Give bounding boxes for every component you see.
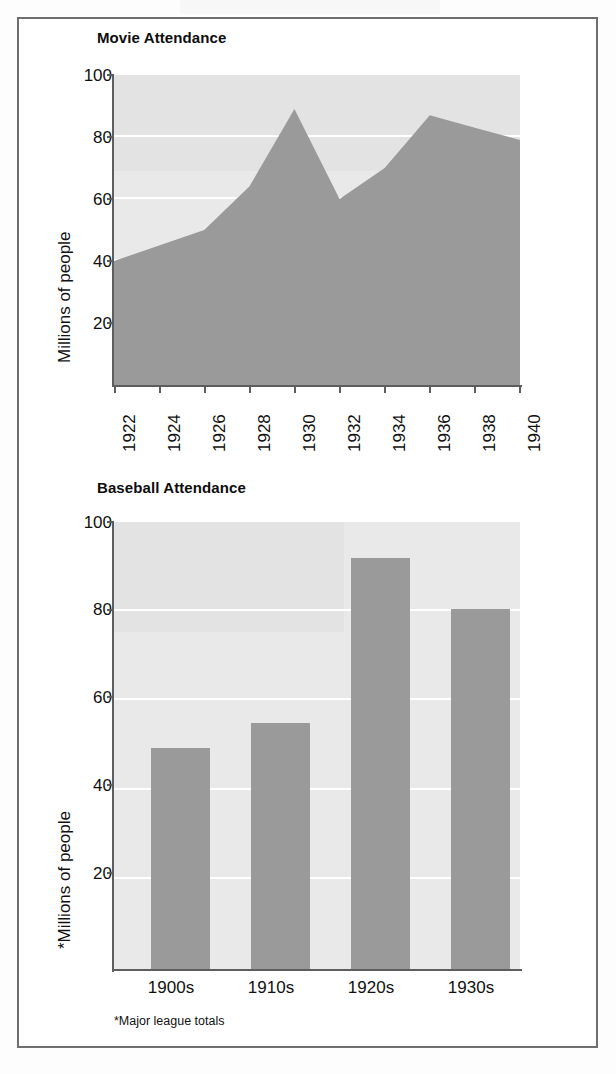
y-tick-mark-movie-60 <box>107 198 114 200</box>
y-tick-label-baseball-60: 60 <box>64 689 112 706</box>
x-tick-mark-movie-1924 <box>159 385 161 393</box>
bar-1930s <box>451 609 510 969</box>
y-tick-label-baseball-80: 80 <box>64 601 112 618</box>
chart-title-baseball: Baseball Attendance <box>97 479 246 496</box>
y-tick-label-baseball-40: 40 <box>64 777 112 794</box>
y-axis-label-movie: Millions of people <box>55 232 75 363</box>
y-tick-label-movie-20: 20 <box>64 315 112 332</box>
y-tick-mark-movie-100 <box>107 74 114 76</box>
plot-ghost-band <box>114 522 344 632</box>
chart-baseball-attendance: Baseball Attendance *Millions of people … <box>19 469 598 1049</box>
y-tick-mark-movie-40 <box>107 260 114 262</box>
x-tick-label-baseball-1930s: 1930s <box>411 979 531 996</box>
x-tick-label-movie-1932: 1932 <box>346 414 363 452</box>
y-tick-label-movie-80: 80 <box>64 129 112 146</box>
x-tick-mark-movie-1932 <box>339 385 341 393</box>
x-tick-label-movie-1934: 1934 <box>391 414 408 452</box>
y-tick-label-movie-100: 100 <box>64 67 112 84</box>
x-tick-label-movie-1930: 1930 <box>301 414 318 452</box>
x-tick-mark-movie-1936 <box>429 385 431 393</box>
y-tick-mark-movie-80 <box>107 136 114 138</box>
figure-frame: Movie Attendance Millions of people 100 … <box>17 17 598 1048</box>
x-tick-mark-movie-1940 <box>519 385 521 393</box>
x-tick-label-movie-1936: 1936 <box>436 414 453 452</box>
x-axis-line-baseball <box>112 969 522 971</box>
chart-footnote-baseball: *Major league totals <box>114 1014 224 1028</box>
bar-1900s <box>151 748 210 969</box>
figure-page: Movie Attendance Millions of people 100 … <box>0 0 616 1074</box>
plot-area-movie <box>114 75 520 385</box>
x-tick-label-movie-1924: 1924 <box>166 414 183 452</box>
bar-1920s <box>351 558 410 969</box>
x-tick-mark-movie-1926 <box>204 385 206 393</box>
x-tick-label-movie-1940: 1940 <box>526 414 543 452</box>
area-series-movie <box>114 75 520 385</box>
y-tick-label-movie-60: 60 <box>64 191 112 208</box>
chart-movie-attendance: Movie Attendance Millions of people 100 … <box>19 19 598 459</box>
x-tick-mark-movie-1928 <box>249 385 251 393</box>
y-tick-label-baseball-20: 20 <box>64 865 112 882</box>
chart-title-movie: Movie Attendance <box>97 29 226 46</box>
y-tick-mark-baseball-60 <box>107 696 114 698</box>
x-tick-label-movie-1928: 1928 <box>256 414 273 452</box>
x-tick-label-movie-1938: 1938 <box>481 414 498 452</box>
page-bleed-artifact <box>180 0 440 14</box>
x-tick-mark-movie-1930 <box>294 385 296 393</box>
x-tick-mark-movie-1938 <box>474 385 476 393</box>
x-tick-label-movie-1926: 1926 <box>211 414 228 452</box>
y-tick-mark-baseball-80 <box>107 609 114 611</box>
bar-1910s <box>251 723 310 969</box>
y-tick-mark-movie-20 <box>107 322 114 324</box>
x-tick-mark-movie-1922 <box>114 385 116 393</box>
y-tick-label-movie-40: 40 <box>64 253 112 270</box>
y-tick-label-baseball-100: 100 <box>64 514 112 531</box>
x-axis-line-movie <box>112 385 522 387</box>
y-tick-mark-baseball-40 <box>107 784 114 786</box>
x-tick-mark-movie-1934 <box>384 385 386 393</box>
y-tick-mark-baseball-100 <box>107 521 114 523</box>
x-tick-label-movie-1922: 1922 <box>121 414 138 452</box>
y-tick-mark-baseball-20 <box>107 872 114 874</box>
plot-area-baseball <box>114 522 520 969</box>
